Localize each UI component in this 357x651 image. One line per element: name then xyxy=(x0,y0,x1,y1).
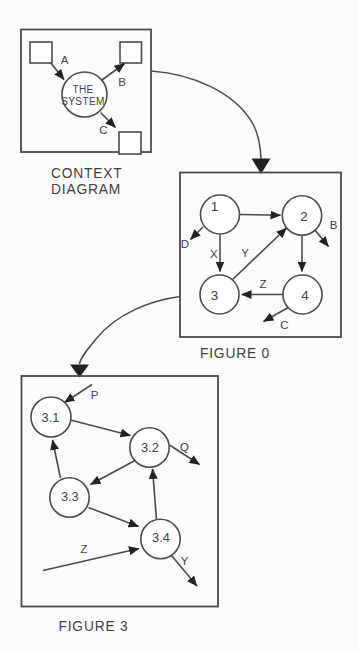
flow-label-a: A xyxy=(61,54,69,66)
flow-arrow-y-3-to-2 xyxy=(231,228,287,281)
flow-label-y: Y xyxy=(241,247,249,259)
leveling-curve-1 xyxy=(152,71,262,159)
context-diagram: THE SYSTEM A B C CONTEXT DIAGRAM xyxy=(21,30,151,197)
process-label-4: 4 xyxy=(301,288,309,303)
figure-0: 1 2 3 4 D X Y B Z C FIGURE 0 xyxy=(180,173,341,362)
flow-arrow-p-in xyxy=(65,385,93,403)
flow-arrow-31-to-32 xyxy=(71,420,131,436)
flow-label-z-fig0: Z xyxy=(259,278,266,290)
figure3-caption: FIGURE 3 xyxy=(59,619,129,634)
figure0-caption: FIGURE 0 xyxy=(200,346,270,361)
leveling-arrow-context-to-figure0 xyxy=(152,71,271,174)
process-circle-3 xyxy=(200,275,239,314)
flow-label-b: B xyxy=(118,76,126,88)
flow-arrow-33-to-31 xyxy=(53,440,61,478)
flow-arrow-1-to-2 xyxy=(240,215,281,216)
flow-arrow-b-out xyxy=(314,229,329,247)
flow-arrow-34-to-32 xyxy=(153,469,157,520)
process-circle-1 xyxy=(201,195,240,234)
flow-label-c-fig0: C xyxy=(280,319,288,331)
external-entity-square-bottom-right xyxy=(119,132,141,154)
flow-label-d: D xyxy=(181,238,189,250)
flow-label-p: P xyxy=(91,389,99,401)
system-label-line2: SYSTEM xyxy=(61,96,105,107)
system-label-line1: THE xyxy=(72,84,93,95)
flow-arrow-32-to-33 xyxy=(91,461,136,485)
process-label-3-2: 3.2 xyxy=(141,440,159,455)
flow-label-x: X xyxy=(210,248,218,260)
context-diagram-caption-line1: CONTEXT xyxy=(51,166,123,181)
process-label-2: 2 xyxy=(300,209,308,224)
flow-label-z-fig3: Z xyxy=(80,543,87,555)
system-process-circle xyxy=(62,72,107,117)
flow-label-q: Q xyxy=(180,441,189,453)
process-label-3-4: 3.4 xyxy=(152,530,170,545)
flow-arrow-z-in xyxy=(43,549,139,571)
external-entity-square-top-right xyxy=(120,42,142,63)
leveling-arrow-figure0-to-figure3 xyxy=(70,297,180,378)
process-label-3-1: 3.1 xyxy=(42,410,60,425)
flow-arrow-d-out xyxy=(191,227,204,240)
flow-label-y-fig3: Y xyxy=(181,555,189,567)
flow-label-c: C xyxy=(99,124,107,136)
dfd-leveling-diagram: THE SYSTEM A B C CONTEXT DIAGRAM 1 2 3 4… xyxy=(0,0,357,651)
scanned-diagram-page: THE SYSTEM A B C CONTEXT DIAGRAM 1 2 3 4… xyxy=(0,0,357,651)
process-label-1: 1 xyxy=(211,199,219,214)
figure0-box xyxy=(180,173,341,338)
context-diagram-caption-line2: DIAGRAM xyxy=(51,182,121,197)
external-entity-square-top-left xyxy=(30,42,52,63)
flow-arrow-33-to-34 xyxy=(89,508,139,527)
process-label-3-3: 3.3 xyxy=(61,489,79,504)
figure-3: 3.1 3.2 3.3 3.4 P Q Z Y FIGURE 3 xyxy=(22,376,219,634)
flow-label-b-fig0: B xyxy=(330,219,338,231)
leveling-curve-2 xyxy=(80,297,181,365)
process-label-3: 3 xyxy=(211,288,219,303)
